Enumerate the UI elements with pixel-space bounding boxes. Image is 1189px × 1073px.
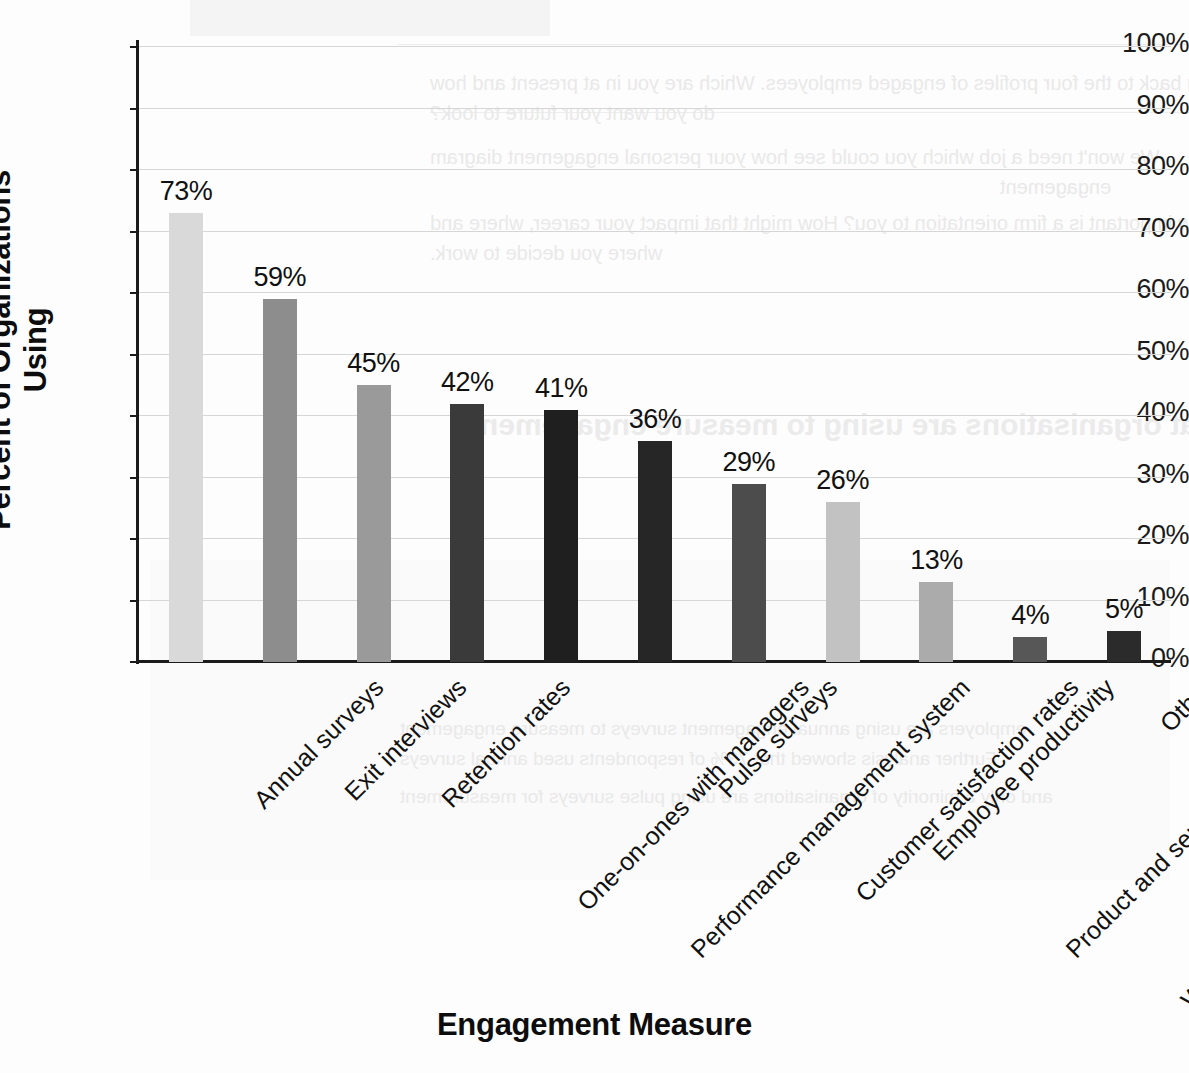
bar [357, 385, 391, 662]
gridline [139, 108, 1171, 109]
bar [919, 582, 953, 662]
bar-value-label: 26% [783, 465, 903, 496]
gridline [139, 169, 1171, 170]
bar [1013, 637, 1047, 662]
gridline [139, 231, 1171, 232]
x-axis-title: Engagement Measure [0, 1007, 1189, 1043]
bar-value-label: 36% [595, 404, 715, 435]
bar [638, 441, 672, 662]
bar [732, 484, 766, 662]
y-axis-title: Percent of Organizations Using [0, 140, 54, 560]
gridline [139, 46, 1171, 47]
bar [826, 502, 860, 662]
bar [450, 404, 484, 662]
bar-value-label: 59% [220, 262, 340, 293]
x-axis-tick-label: Other [1154, 673, 1189, 738]
bar-value-label: 13% [876, 545, 996, 576]
x-axis-tick-label: Customer satisfaction rates [850, 673, 1085, 908]
scan-shade-top [190, 0, 550, 36]
bar [169, 213, 203, 662]
scanned-chart-page: letting back to the four profiles of eng… [0, 0, 1189, 1073]
bar-value-label: 5% [1064, 594, 1184, 625]
bar [544, 410, 578, 662]
bar [263, 299, 297, 662]
bar [1107, 631, 1141, 662]
plot-area [139, 46, 1171, 662]
bar-value-label: 73% [126, 176, 246, 207]
bar-value-label: 41% [501, 373, 621, 404]
